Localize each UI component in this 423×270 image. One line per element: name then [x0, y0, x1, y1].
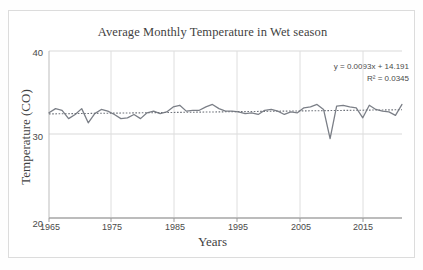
- plot-area: [0, 0, 423, 270]
- trendline: [49, 110, 402, 114]
- x-axis-ticks: [49, 218, 363, 222]
- gridlines: [49, 51, 402, 218]
- figure-container: Average Monthly Temperature in Wet seaso…: [0, 0, 423, 270]
